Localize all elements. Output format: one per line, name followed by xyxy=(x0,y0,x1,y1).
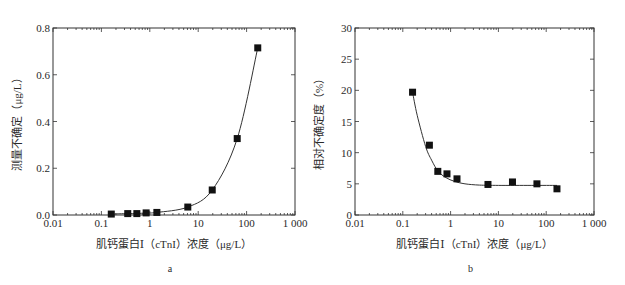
x-tick-label: 100 xyxy=(538,217,555,229)
square-marker xyxy=(533,180,540,187)
y-axis-label: 相对不确定度（%） xyxy=(312,73,325,170)
panel-caption: b xyxy=(468,263,473,274)
fit-curve xyxy=(413,92,557,185)
x-tick-label: 10 xyxy=(493,217,505,229)
square-marker xyxy=(153,209,160,216)
square-marker xyxy=(124,210,131,217)
y-tick-label: 20 xyxy=(341,84,353,96)
x-tick-labels: 0.010.11101001 000 xyxy=(43,217,308,229)
square-marker xyxy=(434,168,441,175)
x-tick-label: 1 000 xyxy=(283,217,308,229)
square-marker xyxy=(426,142,433,149)
square-marker xyxy=(553,185,560,192)
square-marker xyxy=(443,170,450,177)
square-marker xyxy=(143,209,150,216)
figure: 0.010.11101001 0000.00.20.40.60.8肌钙蛋白Ⅰ（c… xyxy=(0,0,625,285)
fit-curve xyxy=(111,48,257,214)
y-tick-label: 0 xyxy=(347,209,353,221)
x-tick-label: 100 xyxy=(238,217,255,229)
square-marker xyxy=(108,211,115,218)
y-tick-label: 10 xyxy=(341,147,353,159)
square-marker xyxy=(484,181,491,188)
y-tick-label: 5 xyxy=(347,178,353,190)
data-points xyxy=(108,44,261,217)
y-tick-label: 0.6 xyxy=(36,69,50,81)
x-tick-label: 1 xyxy=(147,217,153,229)
square-marker xyxy=(234,135,241,142)
square-marker xyxy=(409,89,416,96)
x-axis-label: 肌钙蛋白Ⅰ（cTnI）浓度（μg/L） xyxy=(96,237,252,250)
x-tick-labels: 0.010.11101001 000 xyxy=(345,217,607,229)
x-axis-label: 肌钙蛋白Ⅰ（cTnI）浓度（μg/L） xyxy=(396,237,552,250)
plot-frame xyxy=(53,28,295,215)
y-tick-label: 0.0 xyxy=(36,209,50,221)
y-tick-labels: 0.00.20.40.60.8 xyxy=(36,22,50,221)
chart-panel-a: 0.010.11101001 0000.00.20.40.60.8肌钙蛋白Ⅰ（c… xyxy=(10,22,308,274)
square-marker xyxy=(133,210,140,217)
square-marker xyxy=(209,186,216,193)
y-axis-label: 测量不确定（μg/L） xyxy=(10,72,23,170)
y-tick-label: 0.4 xyxy=(36,116,50,128)
panel-caption: a xyxy=(168,263,173,274)
square-marker xyxy=(509,178,516,185)
y-tick-labels: 051015202530 xyxy=(341,22,353,221)
y-tick-label: 30 xyxy=(341,22,353,34)
x-tick-label: 0.1 xyxy=(396,217,410,229)
data-points xyxy=(409,89,560,193)
y-tick-label: 15 xyxy=(341,116,353,128)
y-tick-label: 0.2 xyxy=(36,162,50,174)
x-tick-label: 10 xyxy=(193,217,205,229)
y-tick-label: 25 xyxy=(341,53,353,65)
x-tick-label: 1 000 xyxy=(582,217,607,229)
square-marker xyxy=(254,44,261,51)
tick-marks xyxy=(53,28,295,215)
square-marker xyxy=(184,204,191,211)
chart-panel-b: 0.010.11101001 000051015202530肌钙蛋白Ⅰ（cTnI… xyxy=(312,22,607,274)
x-tick-label: 1 xyxy=(448,217,454,229)
square-marker xyxy=(453,175,460,182)
x-tick-label: 0.1 xyxy=(95,217,109,229)
y-tick-label: 0.8 xyxy=(36,22,50,34)
